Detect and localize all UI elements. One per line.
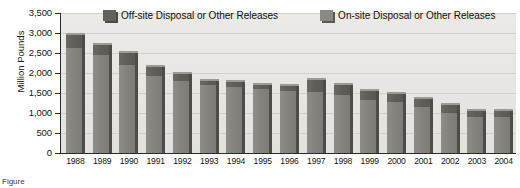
bar-1994 [226, 82, 245, 153]
x-axis-tick-label-1996: 1996 [277, 156, 303, 166]
bar-1989 [93, 45, 112, 153]
bar-side-shadow [109, 45, 112, 153]
bar-side-shadow [376, 91, 379, 153]
bar-1999 [360, 91, 379, 153]
y-axis-tick [55, 33, 61, 34]
bars-container [61, 13, 516, 153]
bar-segment-offsite [360, 91, 377, 100]
bar-side-shadow [457, 105, 460, 153]
y-axis-tick-label: 3,000 [2, 27, 52, 38]
bar-1988 [66, 35, 85, 153]
bar-2003 [467, 111, 486, 153]
bar-top-face [414, 97, 433, 99]
bar-segment-offsite [387, 94, 404, 102]
legend-swatch-offsite-icon [103, 10, 116, 21]
bar-segment-onsite [253, 89, 270, 153]
bar-top-face [66, 33, 85, 35]
x-axis-tick-label-2001: 2001 [410, 156, 436, 166]
x-axis-tick-label-1991: 1991 [143, 156, 169, 166]
bar-segment-onsite [467, 117, 484, 153]
bar-segment-offsite [441, 105, 458, 113]
bar-segment-onsite [226, 87, 243, 153]
x-axis-tick-label-2000: 2000 [384, 156, 410, 166]
bar-top-face [173, 72, 192, 74]
legend-swatch-onsite-icon [320, 10, 333, 21]
bar-segment-onsite [360, 100, 377, 153]
bar-segment-offsite [226, 82, 243, 86]
bar-side-shadow [242, 82, 245, 153]
bar-segment-onsite [494, 117, 511, 153]
bar-segment-offsite [66, 35, 83, 48]
bar-segment-onsite [307, 92, 324, 153]
bar-side-shadow [430, 99, 433, 153]
y-axis-tick-labels: 05001,0001,5002,0002,5003,0003,500 [0, 0, 52, 188]
x-axis-tick-label-2004: 2004 [491, 156, 517, 166]
y-axis-tick-label: 0 [2, 147, 52, 158]
bar-segment-onsite [93, 55, 110, 153]
bar-1992 [173, 74, 192, 153]
bar-segment-offsite [307, 80, 324, 92]
bar-side-shadow [323, 80, 326, 153]
bar-side-shadow [216, 81, 219, 153]
bar-1991 [146, 67, 165, 153]
bar-side-shadow [269, 85, 272, 153]
bar-top-face [253, 83, 272, 85]
y-axis-tick-label: 500 [2, 127, 52, 138]
bar-segment-offsite [494, 111, 511, 117]
y-axis-title: Million Pounds [15, 10, 26, 114]
bar-top-face [280, 84, 299, 86]
x-axis-tick-label-1998: 1998 [330, 156, 356, 166]
bar-segment-offsite [414, 99, 431, 106]
bar-2004 [494, 111, 513, 153]
x-axis-tick-label-1997: 1997 [303, 156, 329, 166]
figure-caption: Figure [2, 177, 518, 188]
x-axis-tick-label-2003: 2003 [464, 156, 490, 166]
bar-segment-offsite [93, 45, 110, 55]
bar-1990 [119, 53, 138, 153]
bar-segment-offsite [119, 53, 136, 65]
x-axis-tick-label-1989: 1989 [89, 156, 115, 166]
bar-side-shadow [350, 85, 353, 153]
bar-side-shadow [403, 94, 406, 153]
bar-side-shadow [483, 111, 486, 153]
y-axis-tick [55, 73, 61, 74]
bar-top-face [226, 80, 245, 82]
bar-1996 [280, 86, 299, 153]
bar-side-shadow [82, 35, 85, 153]
legend-item-offsite: Off-site Disposal or Other Releases [103, 10, 278, 21]
bar-1998 [334, 85, 353, 153]
bar-top-face [494, 109, 513, 111]
x-axis-tick-label-1993: 1993 [196, 156, 222, 166]
bar-segment-offsite [280, 86, 297, 91]
bar-segment-offsite [173, 74, 190, 81]
bar-segment-offsite [146, 67, 163, 77]
bar-side-shadow [162, 67, 165, 153]
legend-label-onsite: On-site Disposal or Other Releases [338, 10, 495, 21]
x-axis-tick-label-1990: 1990 [116, 156, 142, 166]
bar-1995 [253, 85, 272, 153]
y-axis-tick [55, 113, 61, 114]
bar-2001 [414, 99, 433, 153]
bar-top-face [93, 43, 112, 45]
y-axis-tick-label: 2,500 [2, 47, 52, 58]
bar-segment-offsite [200, 81, 217, 85]
y-axis-tick-label: 1,500 [2, 87, 52, 98]
bar-1993 [200, 81, 219, 153]
chart-legend: Off-site Disposal or Other Releases On-s… [103, 10, 495, 21]
bar-side-shadow [189, 74, 192, 153]
bar-segment-onsite [173, 81, 190, 153]
bar-segment-offsite [253, 85, 270, 89]
bar-top-face [200, 79, 219, 81]
bar-top-face [360, 89, 379, 91]
bar-side-shadow [135, 53, 138, 153]
y-axis-tick [55, 93, 61, 94]
y-axis-tick [55, 53, 61, 54]
x-axis-tick-label-1995: 1995 [250, 156, 276, 166]
bar-segment-onsite [200, 85, 217, 153]
y-axis-tick [55, 133, 61, 134]
bar-top-face [146, 65, 165, 67]
bar-segment-onsite [280, 91, 297, 153]
bar-segment-onsite [387, 102, 404, 153]
x-axis-tick-labels: 1988198919901991199219931994199519961997… [61, 156, 516, 170]
x-axis-tick-label-1992: 1992 [169, 156, 195, 166]
